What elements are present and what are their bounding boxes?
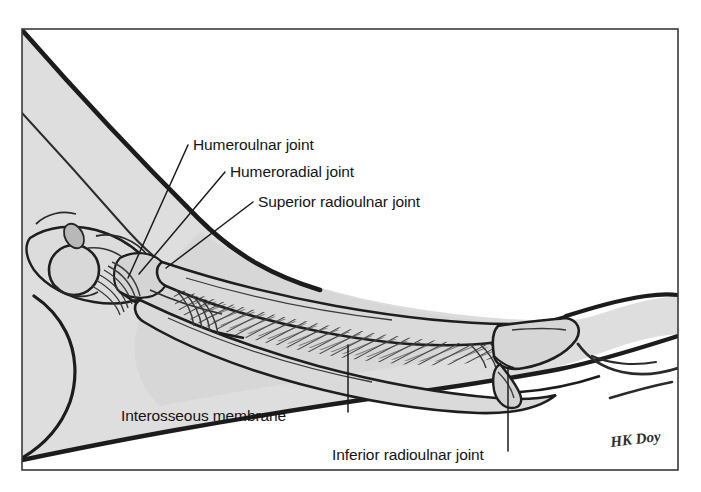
label-inferior-radioulnar-joint: Inferior radioulnar joint xyxy=(332,446,485,463)
anatomy-illustration-canvas: Humeroulnar joint Humeroradial joint Sup… xyxy=(0,0,701,492)
label-humeroradial-joint: Humeroradial joint xyxy=(230,163,355,180)
label-humeroulnar-joint: Humeroulnar joint xyxy=(193,136,314,153)
label-superior-radioulnar-joint: Superior radioulnar joint xyxy=(258,193,421,210)
label-interosseous-membrane: Interosseous membrane xyxy=(121,407,286,424)
anatomy-figure: Humeroulnar joint Humeroradial joint Sup… xyxy=(0,0,701,492)
figure-caption xyxy=(22,478,682,492)
